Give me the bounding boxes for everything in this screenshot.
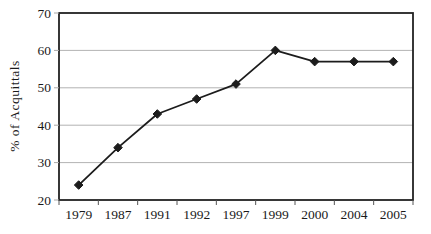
line-plot-canvas: 2030405060701979198719911992199719992000…: [0, 0, 431, 234]
data-point-1992: [192, 95, 201, 104]
x-tick-label-1991: 1991: [144, 207, 171, 222]
y-tick-label-30: 30: [38, 155, 52, 170]
x-tick-label-2005: 2005: [380, 207, 407, 222]
y-tick-label-20: 20: [38, 193, 52, 208]
x-tick-label-1992: 1992: [183, 207, 210, 222]
plot-border: [59, 13, 413, 200]
y-tick-label-60: 60: [38, 43, 52, 58]
acquittals-chart: % of Acquittals 203040506070197919871991…: [0, 0, 431, 234]
y-tick-label-70: 70: [38, 6, 52, 21]
data-point-2005: [389, 57, 398, 66]
y-tick-label-50: 50: [38, 80, 52, 95]
data-point-2004: [350, 57, 359, 66]
data-point-2000: [310, 57, 319, 66]
x-tick-label-1979: 1979: [65, 207, 92, 222]
x-tick-label-1997: 1997: [223, 207, 250, 222]
x-tick-label-1987: 1987: [105, 207, 132, 222]
y-tick-label-40: 40: [38, 118, 52, 133]
x-tick-label-1999: 1999: [262, 207, 289, 222]
data-line--of-acquittals: [79, 50, 394, 185]
x-tick-label-2004: 2004: [341, 207, 368, 222]
x-tick-label-2000: 2000: [301, 207, 328, 222]
